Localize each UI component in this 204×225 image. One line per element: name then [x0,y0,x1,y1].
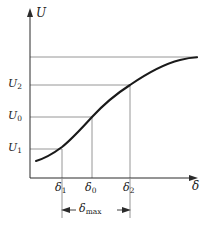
y-axis-label: U [36,7,46,19]
x-axis-label: δ [192,180,199,192]
x-tick-label-delta2: δ2 [123,182,134,194]
y-tick-u1-sub: 1 [17,146,22,155]
x-tick-delta2-sub: 2 [130,186,135,195]
y-tick-label-u2: U2 [8,78,22,90]
x-tick-delta0-sub: 0 [92,186,97,195]
x-tick-label-delta1: δ1 [55,182,66,194]
x-tick-delta1-sub: 1 [62,186,67,195]
y-tick-label-u0: U0 [8,110,22,122]
x-tick-label-delta0: δ0 [85,182,96,194]
dimension-deltamax-sub: max [86,207,102,216]
x-tick-delta1-main: δ [55,181,62,194]
plot-canvas [0,0,204,225]
y-tick-label-u1: U1 [8,142,22,154]
y-tick-u2-sub: 2 [17,82,22,91]
dimension-deltamax-main: δ [79,202,86,215]
y-tick-u0-main: U [8,109,17,122]
y-axis-arrow-icon [27,8,33,17]
dimension-label-deltamax: δmax [79,203,101,215]
y-tick-u1-main: U [8,141,17,154]
x-tick-delta0-main: δ [85,181,92,194]
x-tick-delta2-main: δ [123,181,130,194]
response-curve [36,57,197,161]
y-tick-u2-main: U [8,77,17,90]
y-tick-u0-sub: 0 [17,114,22,123]
figure-container: U δ U2 U0 U1 δ1 δ0 δ2 δmax [0,0,204,225]
